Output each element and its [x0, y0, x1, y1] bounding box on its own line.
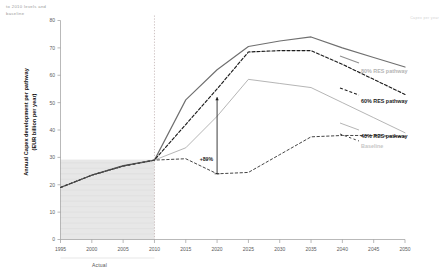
x-axis-tick-label: 2035 — [305, 246, 316, 252]
x-axis-tick-label: 2000 — [86, 246, 97, 252]
x-axis-tick-label: 2045 — [368, 246, 379, 252]
note-top-right: Capex per year — [410, 16, 439, 20]
x-axis-tick-label: 2030 — [274, 246, 285, 252]
x-axis-tick-label: 2025 — [243, 246, 254, 252]
y-axis-tick-label: 10 — [49, 209, 55, 215]
legend-leader-line — [340, 88, 359, 95]
legend-label-80: 80% RES pathway — [361, 68, 407, 74]
legend-leader-line — [340, 123, 359, 130]
x-axis-tick-label: 1995 — [55, 246, 66, 252]
x-axis-tick-label: 2005 — [118, 246, 129, 252]
y-axis-tick-label: 70 — [49, 45, 55, 51]
x-axis-tick-label: 2020 — [212, 246, 223, 252]
y-axis-tick-label: 80 — [49, 17, 55, 23]
legend-label-baseline: Baseline — [361, 143, 383, 149]
y-axis-tick-label: 40 — [49, 127, 55, 133]
legend-label-60: 60% RES pathway — [361, 98, 407, 104]
chart-plot-area: 0102030405060708019952000200520102015202… — [0, 0, 443, 278]
actual-region-label: Actual — [92, 262, 107, 268]
y-axis-tick-label: 30 — [49, 154, 55, 160]
note-top-left: to 2010 levels and baseline — [6, 4, 126, 17]
y-axis-title: Annual Capex development per pathway (EU… — [22, 22, 38, 222]
growth-arrow-head — [215, 97, 218, 100]
y-axis-tick-label: 0 — [52, 236, 55, 242]
legend-label-40: 40% RES pathway — [361, 133, 407, 139]
y-axis-tick-label: 20 — [49, 182, 55, 188]
x-axis-tick-label: 2050 — [399, 246, 410, 252]
chart-container: to 2010 levels and baseline Capex per ye… — [0, 0, 443, 278]
x-axis-tick-label: 2015 — [180, 246, 191, 252]
y-axis-tick-label: 60 — [49, 72, 55, 78]
y-axis-tick-label: 50 — [49, 100, 55, 106]
x-axis-tick-label: 2010 — [149, 246, 160, 252]
x-axis-tick-label: 2040 — [337, 246, 348, 252]
actual-shaded-region — [61, 160, 155, 240]
growth-percentage-label: +89% — [200, 156, 214, 162]
legend-leader-line — [340, 56, 359, 63]
